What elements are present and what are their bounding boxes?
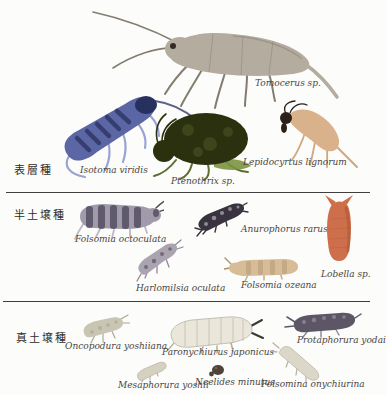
paronychiurus-anal-spines	[251, 320, 263, 338]
species-label-folsomina: Folsomina onychiurina	[261, 379, 365, 389]
group-label-hemiedaphic: 半土壌種	[14, 206, 66, 222]
tomocerus-eye	[170, 43, 176, 49]
folsomia-ozeana-illustration	[224, 254, 304, 282]
ptenothrix-body	[153, 113, 248, 165]
species-label-isotoma: Isotoma viridis	[80, 165, 148, 175]
species-label-ptenothrix: Ptenothrix sp.	[171, 176, 235, 186]
species-label-tomocerus: Tomocerus sp.	[255, 78, 321, 88]
harlomilsia-svg	[131, 238, 187, 284]
harlomilsia-illustration	[131, 238, 187, 284]
ptenothrix-svg	[148, 110, 256, 182]
lobella-illustration	[319, 193, 359, 271]
lobella-svg	[319, 193, 359, 271]
folsomia-ozeana-svg	[224, 254, 304, 282]
species-label-paronychiurus: Paronychiurus japonicus	[162, 347, 274, 357]
ptenothrix-illustration	[148, 110, 256, 182]
species-label-anurophorus: Anurophorus rarus	[241, 224, 328, 234]
divider-surface-hemi	[6, 192, 370, 193]
oncopodura-illustration	[78, 312, 130, 344]
folsomina-illustration	[271, 342, 329, 384]
folsomina-body	[279, 347, 318, 381]
neelides-highlight	[214, 366, 217, 369]
folsomia-ozeana-body	[229, 259, 298, 276]
group-label-euedaphic: 真土壌種	[16, 329, 68, 345]
tomocerus-antennae	[93, 12, 178, 68]
species-label-lepidocyrtus: Lepidocyrtus lignorum	[243, 157, 347, 167]
divider-hemi-eu	[3, 301, 370, 302]
protaphorura-svg	[284, 309, 362, 338]
species-label-folsomia-ozeana: Folsomia ozeana	[241, 280, 317, 290]
protaphorura-illustration	[284, 309, 362, 338]
species-label-lobella: Lobella sp.	[321, 269, 371, 279]
mesaphorura-body	[137, 362, 166, 380]
species-label-harlomilsia: Harlomilsia oculata	[136, 283, 225, 293]
species-label-oncopodura: Oncopodura yoshiiana	[65, 341, 167, 351]
group-label-surface: 表層種	[14, 161, 53, 177]
folsomina-svg	[271, 342, 329, 384]
paronychiurus-body	[171, 317, 252, 347]
lepidocyrtus-head	[280, 112, 292, 133]
oncopodura-svg	[78, 312, 130, 344]
